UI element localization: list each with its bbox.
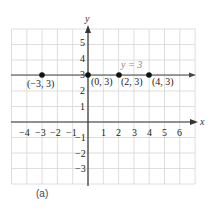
y-tick: −3	[75, 163, 86, 174]
x-tick: 5	[162, 127, 167, 138]
x-tick: 4	[147, 127, 152, 138]
grid-lines	[12, 29, 196, 184]
data-point	[85, 72, 91, 78]
figure-caption: (a)	[36, 188, 48, 199]
y-tick: −1	[75, 132, 86, 143]
y-tick: 4	[80, 53, 85, 64]
y-tick: 3	[80, 69, 85, 80]
x-tick: 1	[101, 127, 106, 138]
point-label: (0, 3)	[91, 76, 113, 88]
x-tick: 3	[132, 127, 137, 138]
line-equation-label: y = 3	[120, 59, 142, 70]
point-label: (−3, 3)	[27, 78, 54, 90]
x-tick: 2	[116, 127, 121, 138]
x-tick: −2	[50, 127, 61, 138]
x-tick: −4	[19, 127, 30, 138]
x-tick: −3	[35, 127, 46, 138]
y-tick: −2	[75, 148, 86, 159]
point-label: (2, 3)	[121, 76, 143, 88]
x-axis-label: x	[199, 116, 205, 127]
coordinate-plane: x y y = 3 −4 −3 −2 −1 1 2 3 4 5 6 5 4 3 …	[0, 0, 212, 212]
data-point	[39, 72, 45, 78]
y-tick: 1	[80, 101, 85, 112]
y-tick: 2	[80, 85, 85, 96]
y-tick: 5	[80, 37, 85, 48]
data-point	[146, 72, 152, 78]
y-axis-label: y	[84, 13, 90, 24]
point-label: (4, 3)	[152, 76, 174, 88]
x-axis-arrow-icon	[190, 119, 198, 125]
x-tick: 6	[177, 127, 182, 138]
